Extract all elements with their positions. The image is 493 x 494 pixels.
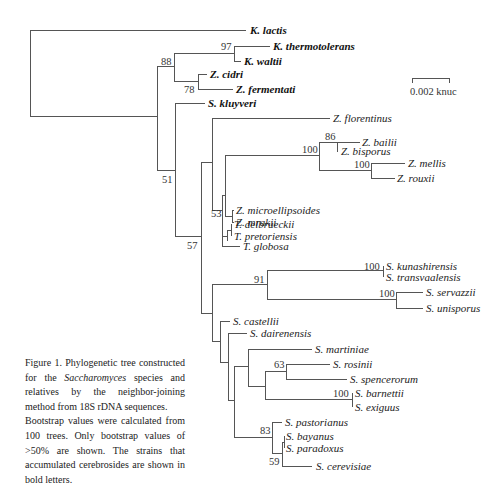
taxon-label: S. unisporus [426, 302, 480, 314]
taxon-label: Z. fermentati [235, 83, 296, 95]
bootstrap-value: 59 [269, 456, 280, 467]
taxon-label: S. martiniae [315, 343, 369, 355]
taxon-label: T. globosa [243, 240, 289, 252]
bootstrap-value: 100 [302, 144, 318, 155]
taxon-label: K. thermotolerans [272, 40, 355, 52]
taxon-label: S. kluyveri [208, 97, 257, 109]
taxon-label: K. waltii [243, 55, 283, 67]
taxon-label: S. spencerorum [350, 373, 418, 385]
caption-paragraph-1: Figure 1. Phylogenetic tree constructed … [25, 356, 185, 414]
bootstrap-value: 51 [162, 174, 173, 185]
bootstrap-value: 78 [184, 84, 195, 95]
bootstrap-value: 88 [161, 56, 172, 67]
taxon-label: S. rosinii [333, 358, 372, 370]
bootstrap-value: 63 [274, 359, 285, 370]
taxon-label: S. pastorianus [285, 416, 348, 428]
taxon-label: Z. florentinus [333, 112, 392, 124]
taxon-label: Z. rouxii [397, 172, 435, 184]
bootstrap-value: 100 [354, 159, 370, 170]
bootstrap-value: 83 [260, 425, 271, 436]
taxon-label: Z. microellipsoides [236, 204, 320, 216]
taxon-label: S. cerevisiae [316, 460, 371, 472]
bootstrap-value: 86 [325, 131, 336, 142]
bootstrap-value: 91 [254, 274, 265, 285]
bootstrap-value: 100 [333, 388, 349, 399]
taxon-label: Z. mellis [408, 157, 446, 169]
caption-genus: Saccharomyces [64, 372, 126, 383]
taxon-label: S. bayanus [286, 430, 334, 442]
taxon-label: S. transvaalensis [386, 271, 461, 283]
taxon-label: S. barnettii [355, 387, 404, 399]
taxon-label: S. servazzii [426, 286, 476, 298]
taxon-label: S. castellii [233, 315, 279, 327]
scale-bar-label: 0.002 knuc [410, 86, 457, 97]
bootstrap-value: 97 [221, 41, 232, 52]
taxon-label: Z. bisporus [341, 145, 391, 157]
scale-bar: 0.002 knuc [410, 78, 457, 97]
taxon-label: T. delbrueckii [234, 218, 294, 230]
bootstrap-value: 57 [187, 240, 198, 251]
figure-caption: Figure 1. Phylogenetic tree constructed … [25, 356, 185, 487]
taxon-label: S. dairenensis [250, 327, 311, 339]
bootstrap-value: 53 [211, 208, 222, 219]
taxon-label: S. paradoxus [286, 442, 343, 454]
bootstrap-value: 100 [379, 288, 395, 299]
taxon-label: Z. cidri [209, 68, 244, 80]
taxon-label: S. exiguus [355, 401, 400, 413]
taxon-label: K. lactis [249, 24, 287, 36]
caption-paragraph-2: Bootstrap values were calculated from 10… [25, 414, 185, 487]
bootstrap-value: 100 [364, 261, 380, 272]
